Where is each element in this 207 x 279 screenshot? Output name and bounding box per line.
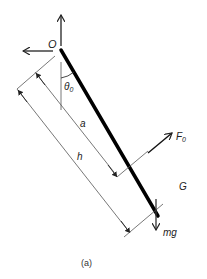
dimension-h-arrow-start xyxy=(18,90,27,102)
dimension-a-arrow-start xyxy=(36,73,45,85)
force-f0-arrow xyxy=(148,133,172,153)
label-theta0: θ0 xyxy=(64,81,73,93)
dimension-a-arrow-end xyxy=(108,165,117,177)
extension-line-h xyxy=(124,204,163,237)
label-o: O xyxy=(48,38,57,50)
label-g: G xyxy=(179,181,187,192)
dimension-h-line xyxy=(17,89,130,233)
label-mg: mg xyxy=(163,227,177,238)
angle-arc xyxy=(61,72,74,78)
figure-caption: (a) xyxy=(81,258,92,268)
rod xyxy=(61,50,158,216)
label-h: h xyxy=(77,151,83,162)
label-f0: F0 xyxy=(176,131,186,143)
extension-line-top xyxy=(17,56,55,89)
label-a: a xyxy=(80,118,86,129)
dimension-h-arrow-end xyxy=(121,221,130,233)
pendulum-diagram: O θ0 a h F0 G mg (a) xyxy=(0,0,207,279)
